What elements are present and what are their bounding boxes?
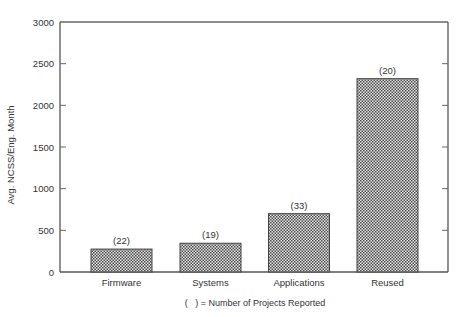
bar-annotation: (20) xyxy=(379,65,396,76)
bar-group: (19)Systems xyxy=(180,229,241,288)
x-category-label: Systems xyxy=(192,277,229,288)
bar-annotation: (22) xyxy=(113,235,130,246)
y-tick-label: 1500 xyxy=(33,142,54,153)
chart-canvas: Avg. NCSS/Eng. Month 0500100015002000250… xyxy=(0,0,464,317)
bar-chart: Avg. NCSS/Eng. Month 0500100015002000250… xyxy=(0,0,464,317)
bar-group: (22)Firmware xyxy=(91,235,152,288)
bar xyxy=(269,214,330,272)
y-tick-label: 500 xyxy=(38,225,54,236)
bar xyxy=(180,243,241,272)
y-tick-label: 1000 xyxy=(33,183,54,194)
y-tick-label: 2500 xyxy=(33,58,54,69)
y-tick-label: 3000 xyxy=(33,17,54,28)
bar-group: (20)Reused xyxy=(357,65,418,288)
bars: (22)Firmware(19)Systems(33)Applications(… xyxy=(91,65,418,288)
footnote: ( ) = Number of Projects Reported xyxy=(185,298,325,308)
bar xyxy=(357,79,418,272)
bar-group: (33)Applications xyxy=(269,200,330,288)
y-axis-label: Avg. NCSS/Eng. Month xyxy=(5,105,16,204)
y-tick-label: 0 xyxy=(49,267,54,278)
x-category-label: Reused xyxy=(371,277,404,288)
x-category-label: Applications xyxy=(273,277,324,288)
y-tick-label: 2000 xyxy=(33,100,54,111)
bar-annotation: (33) xyxy=(291,200,308,211)
bar xyxy=(91,249,152,272)
bar-annotation: (19) xyxy=(202,229,219,240)
x-category-label: Firmware xyxy=(102,277,142,288)
